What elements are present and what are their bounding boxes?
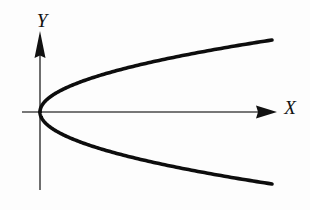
parabola-figure: X Y — [0, 0, 310, 210]
figure-background — [0, 0, 310, 210]
figure-canvas: X Y — [0, 0, 310, 210]
x-axis-label: X — [283, 97, 297, 118]
